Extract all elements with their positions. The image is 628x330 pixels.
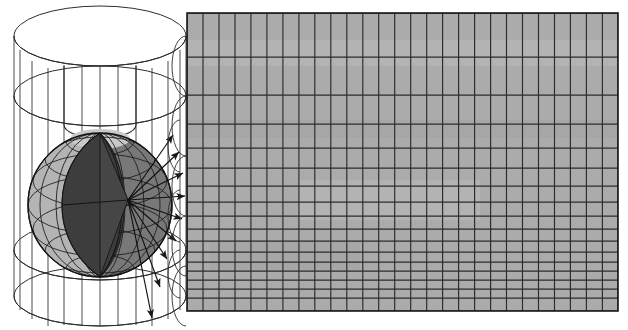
map-grid	[187, 13, 618, 311]
projection-figure	[0, 0, 628, 330]
projection-diagram-svg	[0, 0, 628, 330]
